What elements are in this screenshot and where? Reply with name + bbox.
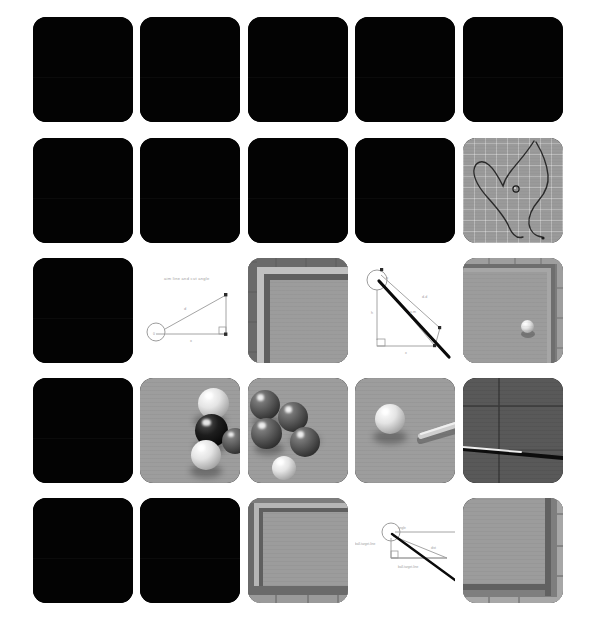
diagram-b-angle-label: α bbox=[386, 276, 388, 280]
cloth-texture bbox=[463, 272, 547, 363]
blank-frame bbox=[33, 138, 133, 243]
blank-frame bbox=[33, 498, 133, 603]
thumbnail-card-cueball-stick[interactable] bbox=[355, 378, 455, 483]
ball-path-trace bbox=[463, 138, 563, 243]
thumbnail-card[interactable] bbox=[140, 498, 240, 603]
blank-frame bbox=[463, 17, 563, 122]
thumbnail-grid: aim line and cut angle d x θ bbox=[0, 0, 607, 634]
thumbnail-card[interactable] bbox=[463, 17, 563, 122]
cloth-texture bbox=[270, 280, 348, 363]
blank-frame bbox=[140, 138, 240, 243]
diagram-b-hyp-label: d-d bbox=[422, 295, 427, 299]
diagram-c-bottom-label: ball-target-line bbox=[398, 565, 418, 569]
blank-frame bbox=[33, 258, 133, 363]
diagram-a-base-label: x bbox=[190, 338, 192, 343]
thumbnail-card-diagram-c[interactable]: angle ball-target-line ball-target-line … bbox=[355, 498, 455, 603]
blank-frame bbox=[140, 17, 240, 122]
billiard-ball bbox=[251, 418, 282, 449]
diagram-c-right-label: dist bbox=[431, 546, 436, 550]
thumbnail-card[interactable] bbox=[140, 138, 240, 243]
thumbnail-card[interactable] bbox=[33, 258, 133, 363]
thumbnail-card-table-corner-2[interactable] bbox=[248, 498, 348, 603]
billiard-ball bbox=[250, 390, 280, 420]
blank-frame bbox=[248, 138, 348, 243]
thumbnail-card[interactable] bbox=[33, 498, 133, 603]
thumbnail-card-path-trace[interactable] bbox=[463, 138, 563, 243]
thumbnail-card-table-corner-ball[interactable] bbox=[463, 258, 563, 363]
billiard-ball bbox=[272, 456, 296, 480]
diagram-b-mid-label: y-m bbox=[410, 310, 416, 314]
thumbnail-card-closeup-cue[interactable] bbox=[463, 378, 563, 483]
thumbnail-card[interactable] bbox=[355, 138, 455, 243]
thumbnail-card[interactable] bbox=[33, 378, 133, 483]
cloth-texture bbox=[463, 498, 545, 584]
billiard-ball bbox=[191, 440, 221, 470]
diagram-a-vertex-label: θ bbox=[153, 332, 155, 336]
thumbnail-card-balls-b[interactable] bbox=[248, 378, 348, 483]
blank-frame bbox=[248, 17, 348, 122]
thumbnail-card[interactable] bbox=[140, 17, 240, 122]
blank-frame bbox=[355, 138, 455, 243]
diagram-c-left-label: ball-target-line bbox=[355, 542, 375, 546]
thumbnail-card-table-corner[interactable] bbox=[248, 258, 348, 363]
billiard-ball bbox=[290, 427, 320, 457]
blank-frame bbox=[140, 498, 240, 603]
diagram-a-hyp-label: d bbox=[184, 306, 186, 311]
aim-angle-diagram: aim line and cut angle d x θ bbox=[140, 258, 240, 363]
thumbnail-card-diagram-a[interactable]: aim line and cut angle d x θ bbox=[140, 258, 240, 363]
diagram-c-top-label: angle bbox=[398, 526, 406, 530]
thumbnail-card[interactable] bbox=[33, 138, 133, 243]
cut-angle-diagram: angle ball-target-line ball-target-line … bbox=[355, 498, 455, 603]
thumbnail-card[interactable] bbox=[33, 17, 133, 122]
diagram-a-title: aim line and cut angle bbox=[164, 276, 210, 281]
diagram-b-base-label: x bbox=[405, 351, 407, 355]
cue-stick bbox=[355, 378, 455, 483]
thumbnail-card[interactable] bbox=[248, 138, 348, 243]
diagram-b-vert-label: h bbox=[371, 311, 373, 315]
cloth-texture bbox=[463, 378, 563, 483]
thumbnail-card[interactable] bbox=[355, 17, 455, 122]
cue-angle-diagram: α d-d y-m h x bbox=[355, 258, 455, 363]
thumbnail-card-balls-a[interactable] bbox=[140, 378, 240, 483]
blank-frame bbox=[33, 378, 133, 483]
cloth-texture bbox=[263, 512, 348, 586]
thumbnail-card-table-corner-3[interactable] bbox=[463, 498, 563, 603]
blank-frame bbox=[33, 17, 133, 122]
blank-frame bbox=[355, 17, 455, 122]
thumbnail-card[interactable] bbox=[248, 17, 348, 122]
thumbnail-card-diagram-b[interactable]: α d-d y-m h x bbox=[355, 258, 455, 363]
